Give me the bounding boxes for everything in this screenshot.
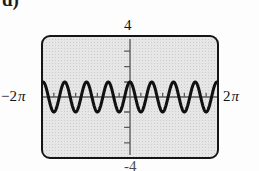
x-min-number: −2	[1, 88, 17, 104]
y-max-label: 4	[124, 17, 132, 33]
x-max-label: 2π	[223, 88, 239, 104]
plot-canvas	[43, 37, 217, 157]
pi-icon-right: π	[231, 88, 240, 104]
y-min-label: -4	[124, 158, 137, 171]
pi-icon-left: π	[17, 88, 26, 104]
part-label: d)	[2, 0, 19, 10]
x-min-label: −2π	[1, 88, 25, 104]
figure-root: d) 4 −2π 2π	[0, 0, 259, 171]
plot-panel	[41, 35, 219, 159]
x-max-number: 2	[223, 88, 231, 104]
